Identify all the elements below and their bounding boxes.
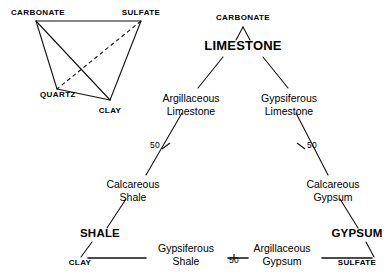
tetra-edge-sulfate-clay [110, 21, 141, 100]
tetra-hidden-edge-sulfate-quartz [57, 21, 141, 89]
tetrahedron-dashed-edges [57, 21, 141, 89]
composition-tetrahedron: CARBONATESULFATEQUARTZCLAY [11, 8, 161, 115]
tree-edge-limestone-to-gypsiferous [263, 57, 288, 88]
tree-node-calcareous-gypsum-line2: Gypsum [313, 191, 352, 203]
tetra-vertex-label-carbonate: CARBONATE [11, 8, 65, 17]
tetra-edge-carbonate-clay [36, 21, 110, 100]
tetra-vertex-label-quartz: QUARTZ [40, 90, 76, 99]
tree-node-gypsiferous-ls: Gypsiferous [261, 92, 317, 104]
tree-branch-value-tick-right-50: 50 [307, 140, 317, 150]
figure-root: CARBONATESULFATEQUARTZCLAY CARBONATELIME… [0, 0, 388, 272]
tree-edge-limestone-to-argillaceous [198, 57, 223, 88]
tree-node-calcareous-gypsum: Calcareous [306, 178, 359, 190]
tree-node-carbonate-top: CARBONATE [216, 13, 270, 22]
tree-tick-mark-right [297, 143, 305, 149]
tree-branch-value-tick-bottom-50: 50 [229, 255, 239, 265]
tree-edge-shale-to-clay [81, 242, 92, 257]
tetra-edge-carbonate-quartz [36, 21, 57, 89]
tree-node-argillaceous-ls-line2: Limestone [167, 105, 216, 117]
tree-node-clay-end: CLAY [69, 258, 92, 267]
tree-node-gypsiferous-shale: Gypsiferous [158, 242, 214, 254]
tree-node-gypsum: GYPSUM [331, 227, 382, 239]
tree-edge-gypsum-to-sulfate [366, 242, 374, 257]
tree-node-shale: SHALE [80, 227, 120, 239]
tetra-vertex-label-clay: CLAY [99, 106, 122, 115]
tetra-vertex-label-sulfate: SULFATE [122, 8, 161, 17]
tree-branch-value-tick-left-50: 50 [150, 140, 160, 150]
tree-node-argillaceous-gyp-line2: Gypsum [262, 255, 301, 267]
tetrahedron-vertex-labels: CARBONATESULFATEQUARTZCLAY [11, 8, 161, 115]
tree-node-gypsiferous-ls-line2: Limestone [265, 105, 314, 117]
lithology-classification-tree: CARBONATELIMESTONEArgillaceousLimestoneG… [69, 13, 383, 267]
tree-node-argillaceous-gyp: Argillaceous [253, 242, 310, 254]
tree-node-calcareous-shale-line2: Shale [120, 191, 147, 203]
tree-node-limestone: LIMESTONE [204, 38, 282, 53]
tree-edge-calcgypsum-to-gypsum [340, 199, 358, 228]
tree-node-argillaceous-ls: Argillaceous [162, 92, 219, 104]
tree-node-labels: CARBONATELIMESTONEArgillaceousLimestoneG… [69, 13, 383, 267]
tree-node-calcareous-shale: Calcareous [106, 178, 159, 190]
tree-node-sulfate-end: SULFATE [338, 258, 377, 267]
diagram-canvas: CARBONATESULFATEQUARTZCLAY CARBONATELIME… [0, 0, 388, 272]
tree-node-gypsiferous-shale-line2: Shale [173, 255, 200, 267]
tetrahedron-solid-edges [36, 21, 141, 100]
tree-edge-calcshale-to-shale [107, 199, 126, 228]
